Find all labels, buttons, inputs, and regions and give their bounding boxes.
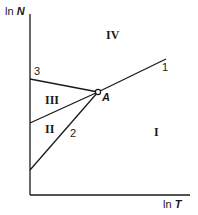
x-axis-label: ln T <box>163 198 183 210</box>
region-III-label: III <box>45 93 59 107</box>
boundary-line-1 <box>98 59 166 92</box>
boundary-line-III-II <box>30 92 98 123</box>
boundary-line-2 <box>30 92 98 170</box>
region-I-label: I <box>154 125 159 139</box>
line-2-label: 2 <box>70 127 76 139</box>
phase-diagram: ln N ln T A 1 2 3 I II III IV <box>0 0 198 215</box>
line-3-label: 3 <box>34 65 40 77</box>
region-II-label: II <box>45 122 55 136</box>
line-1-label: 1 <box>162 61 168 73</box>
point-a-label: A <box>101 91 110 103</box>
y-axis-label: ln N <box>5 5 26 17</box>
region-IV-label: IV <box>106 28 120 42</box>
point-a-marker <box>95 89 100 94</box>
boundary-line-3 <box>30 79 98 92</box>
